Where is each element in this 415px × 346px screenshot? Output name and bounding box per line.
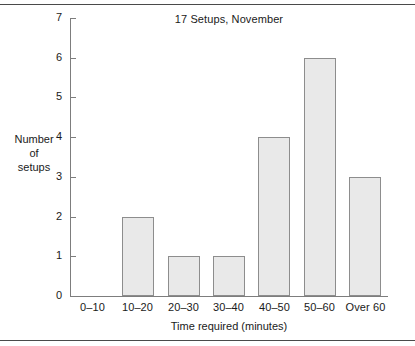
y-axis-tick [71, 217, 76, 218]
y-axis-tick [71, 18, 76, 19]
bar [258, 137, 290, 296]
y-axis-title-line-2: of [8, 146, 60, 160]
x-axis-tick-label: 20–30 [161, 301, 206, 313]
y-axis-tick-label: 0 [36, 290, 62, 301]
y-axis-tick-label: 2 [36, 211, 62, 222]
y-axis-tick [71, 296, 76, 297]
y-axis-tick-label: 7 [36, 12, 62, 23]
bottom-divider-rule [0, 340, 415, 341]
x-axis-tick-label: Over 60 [343, 301, 388, 313]
x-axis-title: Time required (minutes) [70, 320, 388, 332]
y-axis-tick [71, 97, 76, 98]
top-divider-rule [0, 4, 415, 5]
y-axis-tick-label: 6 [36, 52, 62, 63]
bar [349, 177, 381, 296]
y-axis-tick-label: 4 [36, 131, 62, 142]
chart-title: 17 Setups, November [70, 13, 388, 25]
y-axis-tick [71, 177, 76, 178]
bar [122, 217, 154, 296]
y-axis-tick-label: 3 [36, 171, 62, 182]
bar [168, 256, 200, 296]
y-axis-tick [71, 58, 76, 59]
bar [213, 256, 245, 296]
figure-canvas: 17 Setups, November Number of setups 012… [0, 0, 415, 346]
x-axis-tick-label: 40–50 [252, 301, 297, 313]
y-axis-tick-label: 5 [36, 91, 62, 102]
x-axis-tick-label: 50–60 [297, 301, 342, 313]
x-axis-line [70, 296, 388, 297]
x-axis-tick-label: 10–20 [115, 301, 160, 313]
bar [304, 58, 336, 296]
y-axis-tick [71, 256, 76, 257]
x-axis-tick-label: 30–40 [206, 301, 251, 313]
y-axis-tick-label: 1 [36, 250, 62, 261]
x-axis-tick-label: 0–10 [70, 301, 115, 313]
y-axis-tick [71, 137, 76, 138]
